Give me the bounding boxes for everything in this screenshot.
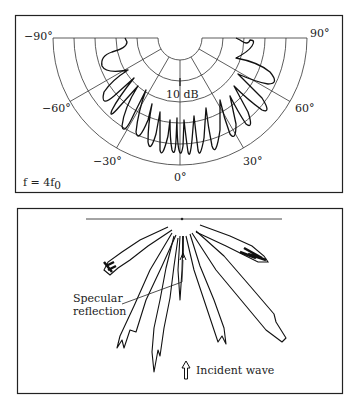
label-neg30: −30° [93,155,122,168]
lobe-right-1 [186,234,226,344]
incident-wave-label: Incident wave [196,364,274,377]
scattering-panel: Specular reflection Incident wave [18,209,343,394]
incident-arrow-icon [182,361,190,379]
lobe-left-2 [152,236,178,372]
label-neg90: −90° [24,30,53,43]
specular-label-line1: Specular [73,292,123,305]
label-pos90: 90° [310,27,330,40]
scale-label: 10 dB [166,88,199,101]
label-pos30: 30° [243,155,263,168]
scatter-point [181,218,184,221]
polar-grid [53,38,307,165]
frequency-label: f = 4f0 [23,176,61,191]
lobe-right-2 [192,231,286,342]
label-pos60: 60° [295,102,315,115]
label-neg60: −60° [42,102,71,115]
lobe-left-1 [117,233,176,348]
figure: −90° 90° −60° 60° −30° 30° 0° 10 dB f = … [0,0,359,406]
polar-panel: −90° 90° −60° 60° −30° 30° 0° 10 dB f = … [16,16,343,193]
label-zero: 0° [174,171,187,184]
specular-label-line2: reflection [73,305,126,318]
